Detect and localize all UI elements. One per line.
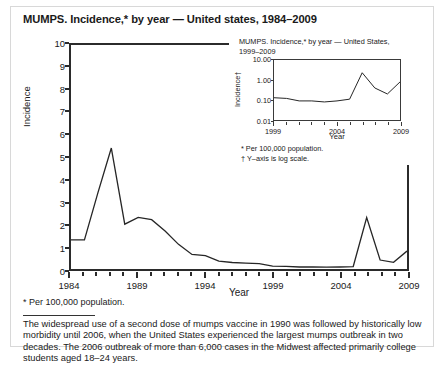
main-x-tick-mark	[272, 272, 274, 278]
inset-x-tick-mark	[388, 122, 389, 125]
main-y-tick-labels: 012345678910	[43, 43, 65, 271]
main-y-tick: 0	[47, 266, 65, 277]
main-x-tick-mark	[367, 272, 369, 276]
inset-notes: * Per 100,000 population. † Y–axis is lo…	[241, 144, 323, 163]
divider	[23, 315, 95, 316]
main-y-tick: 2	[47, 220, 65, 231]
inset-x-tick-mark	[375, 122, 376, 125]
main-x-tick-mark	[163, 272, 165, 276]
main-y-tick: 5	[47, 152, 65, 163]
main-x-tick-mark	[299, 272, 301, 276]
inset-x-tick-mark	[350, 122, 351, 125]
main-x-tick-mark	[204, 272, 206, 278]
main-x-tick-mark	[286, 272, 288, 276]
inset-data-line	[274, 60, 400, 120]
inset-x-tick-mark	[324, 122, 325, 125]
inset-note-log-scale: † Y–axis is log scale.	[241, 154, 323, 164]
main-x-tick-mark	[68, 272, 70, 278]
main-x-tick-mark	[394, 272, 396, 276]
figure-page: MUMPS. Incidence,* by year — United stat…	[10, 6, 434, 347]
inset-x-tick-mark	[337, 122, 338, 126]
main-x-tick-labels: 198419891994199920042009	[69, 274, 409, 288]
inset-y-tick: 0.01	[241, 117, 271, 126]
main-y-axis-label: Incidence	[21, 86, 32, 127]
main-x-tick-mark	[150, 272, 152, 276]
main-x-tick-mark	[218, 272, 220, 276]
main-x-tick-mark	[190, 272, 192, 276]
inset-x-tick-mark	[363, 122, 364, 125]
main-x-tick-mark	[95, 272, 97, 276]
inset-title: MUMPS. Incidence,* by year — United Stat…	[239, 37, 419, 56]
main-x-tick-mark	[340, 272, 342, 278]
inset-y-tick: 0.10	[241, 96, 271, 105]
main-y-tick: 10	[47, 38, 65, 49]
main-x-tick-mark	[381, 272, 383, 276]
main-x-tick-mark	[177, 272, 179, 276]
main-x-tick-mark	[313, 272, 315, 276]
main-x-tick-mark	[122, 272, 124, 276]
inset-y-tick-labels: 0.010.101.0010.00	[239, 59, 271, 121]
inset-x-tick-mark	[299, 122, 300, 125]
inset-y-tick: 10.00	[241, 55, 271, 64]
main-y-tick: 6	[47, 129, 65, 140]
main-x-tick-mark	[354, 272, 356, 276]
inset-chart: MUMPS. Incidence,* by year — United Stat…	[229, 37, 419, 165]
inset-plot-area	[273, 59, 401, 121]
page-title: MUMPS. Incidence,* by year — United stat…	[23, 13, 317, 25]
inset-title-line-1: MUMPS. Incidence,* by year — United Stat…	[239, 37, 389, 46]
inset-y-tick: 1.00	[241, 75, 271, 84]
main-x-tick-mark	[82, 272, 84, 276]
inset-x-tick-mark	[401, 122, 402, 126]
main-x-tick-mark	[258, 272, 260, 276]
body-text: The widespread use of a second dose of m…	[23, 319, 425, 365]
main-x-tick-mark	[231, 272, 233, 276]
main-x-tick-mark	[326, 272, 328, 276]
main-y-tick: 3	[47, 197, 65, 208]
main-x-tick-mark	[109, 272, 111, 276]
inset-note-per-population: * Per 100,000 population.	[241, 144, 323, 154]
main-y-tick: 8	[47, 83, 65, 94]
inset-x-tick-mark	[311, 122, 312, 125]
main-y-tick: 1	[47, 243, 65, 254]
main-x-tick-mark	[245, 272, 247, 276]
main-x-tick-mark	[136, 272, 138, 278]
inset-x-tick-mark	[273, 122, 274, 126]
inset-x-tick-mark	[286, 122, 287, 125]
main-y-tick: 9	[47, 60, 65, 71]
body-paragraph: The widespread use of a second dose of m…	[23, 319, 425, 365]
main-y-tick: 7	[47, 106, 65, 117]
main-y-tick: 4	[47, 174, 65, 185]
inset-x-axis-label: Year	[273, 132, 401, 141]
main-x-tick-mark	[408, 272, 410, 278]
figure-footnote: * Per 100,000 population.	[23, 297, 125, 307]
